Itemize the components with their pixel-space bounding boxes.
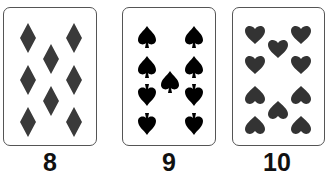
heart-icon	[291, 116, 311, 134]
spade-icon	[185, 84, 203, 106]
heart-icon	[245, 26, 265, 44]
card-10-hearts	[232, 7, 325, 146]
card-label-10: 10	[227, 147, 327, 177]
diamond-icon	[66, 107, 82, 137]
card-9-spades	[122, 7, 216, 146]
diamond-icon	[66, 23, 82, 53]
spade-icon	[185, 113, 203, 135]
heart-icon	[291, 56, 311, 74]
diamond-icon	[20, 23, 36, 53]
heart-icon	[245, 116, 265, 134]
diamond-icon	[66, 65, 82, 95]
diamond-pips	[4, 8, 98, 147]
spade-icon	[185, 26, 203, 48]
heart-icon	[291, 86, 311, 104]
diamond-icon	[20, 107, 36, 137]
heart-icon	[291, 26, 311, 44]
spade-icon	[138, 56, 156, 78]
heart-icon	[245, 86, 265, 104]
heart-pips	[233, 8, 326, 147]
spade-icon	[185, 56, 203, 78]
spade-icon	[138, 84, 156, 106]
spade-pips	[123, 8, 217, 147]
diamond-icon	[20, 65, 36, 95]
card-label-8: 8	[0, 147, 100, 177]
heart-icon	[268, 101, 288, 119]
diamond-icon	[43, 44, 59, 74]
spade-icon	[138, 26, 156, 48]
heart-icon	[268, 40, 288, 58]
diamond-icon	[43, 86, 59, 116]
spade-icon	[138, 113, 156, 135]
card-8-diamonds	[3, 7, 97, 146]
spade-icon	[161, 71, 179, 93]
card-label-9: 9	[119, 147, 219, 177]
heart-icon	[245, 56, 265, 74]
